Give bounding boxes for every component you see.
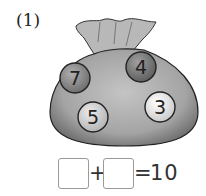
equation: + = 10 xyxy=(58,156,179,190)
problem-number: (1) xyxy=(16,10,40,30)
ball-4-label: 4 xyxy=(135,56,147,78)
equation-result: 10 xyxy=(150,158,179,189)
money-bag-illustration: 7 4 5 3 xyxy=(44,12,202,148)
ball-5-label: 5 xyxy=(87,106,99,128)
answer-box-2[interactable] xyxy=(103,158,134,189)
equals-sign: = xyxy=(134,158,148,189)
ball-7-label: 7 xyxy=(69,67,81,89)
plus-sign: + xyxy=(89,158,103,189)
ball-3-label: 3 xyxy=(154,96,166,118)
answer-box-1[interactable] xyxy=(58,158,89,189)
